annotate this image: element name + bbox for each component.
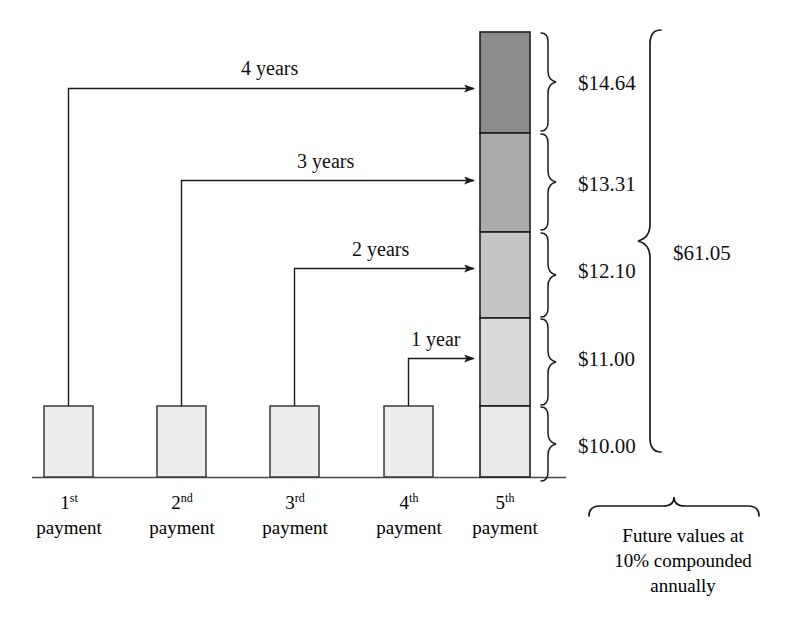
stack-segment-13-31 xyxy=(480,133,530,232)
axis-suffix-2: nd xyxy=(181,491,193,505)
annuity-diagram: 4 years 3 years 2 years 1 year $14.64 $1… xyxy=(0,0,789,624)
value-label-11-00: $11.00 xyxy=(578,347,635,372)
axis-label-1: 1st payment xyxy=(19,486,119,540)
axis-ordinal-2: 2 xyxy=(171,492,181,513)
axis-ordinal-4: 4 xyxy=(400,492,410,513)
value-label-12-10: $12.10 xyxy=(578,259,636,284)
arrow-label-3-years: 3 years xyxy=(297,150,354,173)
total-value-label: $61.05 xyxy=(673,241,731,266)
axis-label-3: 3rd payment xyxy=(245,486,345,540)
value-label-13-31: $13.31 xyxy=(578,172,636,197)
axis-suffix-1: st xyxy=(70,491,78,505)
payment-bar-2 xyxy=(157,406,206,477)
axis-word-3: payment xyxy=(262,517,327,538)
brace-14-64 xyxy=(541,33,556,131)
value-label-14-64: $14.64 xyxy=(578,71,636,96)
brace-11-00 xyxy=(541,319,556,405)
axis-suffix-4: th xyxy=(409,491,418,505)
axis-word-2: payment xyxy=(149,517,214,538)
payment-bar-3 xyxy=(270,406,319,477)
payment-bar-4 xyxy=(384,406,433,477)
brace-12-10 xyxy=(541,233,556,317)
axis-label-4: 4th payment xyxy=(359,486,459,540)
axis-ordinal-5: 5 xyxy=(496,492,506,513)
stack-segment-11-00 xyxy=(480,318,530,406)
axis-suffix-5: th xyxy=(505,491,514,505)
stacked-column xyxy=(480,32,530,477)
stack-segment-14-64 xyxy=(480,32,530,133)
axis-ordinal-1: 1 xyxy=(60,492,70,513)
brace-13-31 xyxy=(541,134,556,230)
arrow-label-1-year: 1 year xyxy=(411,328,460,351)
arrow-3-years xyxy=(182,181,475,407)
axis-label-5: 5th payment xyxy=(455,486,555,540)
axis-ordinal-3: 3 xyxy=(285,492,295,513)
axis-word-1: payment xyxy=(36,517,101,538)
axis-label-2: 2nd payment xyxy=(132,486,232,540)
axis-word-4: payment xyxy=(376,517,441,538)
arrow-label-2-years: 2 years xyxy=(352,238,409,261)
caption-line-1: Future values at xyxy=(622,525,743,546)
stack-segment-12-10 xyxy=(480,232,530,318)
caption-line-2: 10% compounded xyxy=(614,550,752,571)
value-label-10-00: $10.00 xyxy=(578,434,636,459)
arrow-label-4-years: 4 years xyxy=(241,57,298,80)
payment-bar-1 xyxy=(44,406,93,477)
axis-suffix-3: rd xyxy=(295,491,305,505)
brace-total xyxy=(638,30,661,452)
caption-line-3: annually xyxy=(650,575,715,596)
figure-caption: Future values at 10% compounded annually xyxy=(586,523,780,598)
arrow-1-year xyxy=(409,359,475,407)
axis-word-5: payment xyxy=(472,517,537,538)
brace-caption xyxy=(589,497,759,516)
stack-segment-10-00 xyxy=(480,406,530,477)
brace-10-00 xyxy=(541,407,556,481)
